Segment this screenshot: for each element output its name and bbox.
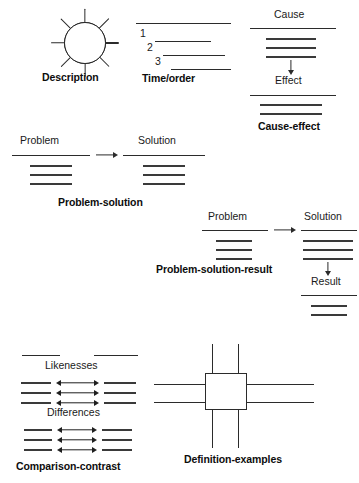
organizer-time-order: 1 2 3 Time/order [134,8,250,90]
cc-difference-rule-left [24,429,52,431]
cc-difference-rule-right [102,439,132,441]
psr-solution-detail-rule [303,258,353,260]
arrow-right-icon [274,224,296,236]
psr-problem-topic-rule [202,230,268,231]
order-number-2: 2 [147,41,153,53]
cc-likeness-rule-left [21,392,51,394]
heading-solution: Solution [138,134,176,146]
heading-problem-2: Problem [208,210,247,222]
problem-topic-rule [12,155,90,156]
heading-effect: Effect [275,74,302,86]
sun-disc-outline-icon [64,22,106,64]
arrow-down-icon [323,262,333,276]
diagram-canvas: Description 1 2 3 Time/order Cause Effec… [0,0,359,483]
caption-time-order: Time/order [142,72,195,84]
cc-difference-rule-right [102,429,132,431]
cc-header-rule-right [94,355,138,356]
organizer-problem-solution-result: Problem Solution Result Problem-solution… [156,208,358,330]
caption-cause-effect: Cause-effect [258,120,320,132]
solution-detail-rule [143,165,185,167]
def-spoke-down [212,408,213,448]
cc-header-rule-left [22,355,60,356]
heading-cause: Cause [274,8,304,20]
organizer-cause-effect: Cause Effect Cause-effect [246,6,356,136]
problem-detail-rule [30,165,72,167]
def-spoke-down [238,408,239,448]
organizer-definition-examples: Definition-examples [160,340,359,475]
caption-problem-solution-result: Problem-solution-result [156,263,272,275]
problem-detail-rule [30,183,72,185]
time-order-step-rule-3 [171,69,231,70]
heading-likenesses: Likenesses [45,359,98,371]
organizer-description: Description [38,4,138,94]
time-order-step-rule-1 [155,41,211,42]
time-order-topic-rule [136,23,231,24]
psr-problem-detail-rule [216,249,252,251]
effect-detail-rule [260,104,322,106]
order-number-3: 3 [155,55,161,67]
cause-detail-rule [266,56,316,58]
cc-difference-rule-right [102,449,132,451]
def-spoke-left [154,384,209,385]
organizer-problem-solution: Problem Solution Problem-solution [8,134,214,214]
cc-likeness-rule-right [104,402,136,404]
psr-result-topic-rule [301,295,357,296]
heading-differences: Differences [47,406,100,418]
solution-detail-rule [143,174,185,176]
solution-detail-rule [143,183,185,185]
definition-box [205,373,247,410]
psr-solution-detail-rule [303,240,353,242]
caption-definition-examples: Definition-examples [184,453,282,465]
cc-likeness-rule-right [104,382,136,384]
psr-result-detail-rule [311,305,347,307]
cc-likeness-rule-left [21,382,51,384]
heading-result: Result [311,275,341,287]
psr-result-detail-rule [311,314,347,316]
cc-likeness-rule-left [21,402,51,404]
effect-detail-rule [260,113,322,115]
order-number-1: 1 [140,27,146,39]
caption-problem-solution: Problem-solution [58,196,143,208]
cause-detail-rule [266,38,316,40]
effect-topic-rule [250,95,336,96]
def-spoke-left [154,402,209,403]
caption-comparison-contrast: Comparison-contrast [16,460,120,472]
arrow-right-icon [96,149,118,161]
def-spoke-right [242,384,314,385]
cc-likeness-rule-right [104,392,136,394]
caption-description: Description [42,71,99,83]
cause-topic-rule [250,28,336,29]
cc-difference-rule-left [24,449,52,451]
psr-problem-detail-rule [216,240,252,242]
solution-topic-rule [123,155,205,156]
heading-problem: Problem [20,134,59,146]
psr-problem-detail-rule [216,258,252,260]
cc-difference-rule-left [24,439,52,441]
psr-solution-topic-rule [301,230,357,231]
double-arrow-icon [57,444,97,455]
arrow-down-icon [286,60,296,75]
psr-solution-detail-rule [303,249,353,251]
cause-detail-rule [266,47,316,49]
time-order-step-rule-2 [163,55,225,56]
heading-solution-2: Solution [304,210,342,222]
problem-detail-rule [30,174,72,176]
organizer-comparison-contrast: Likenesses Differences [12,350,152,475]
def-spoke-right [242,402,314,403]
